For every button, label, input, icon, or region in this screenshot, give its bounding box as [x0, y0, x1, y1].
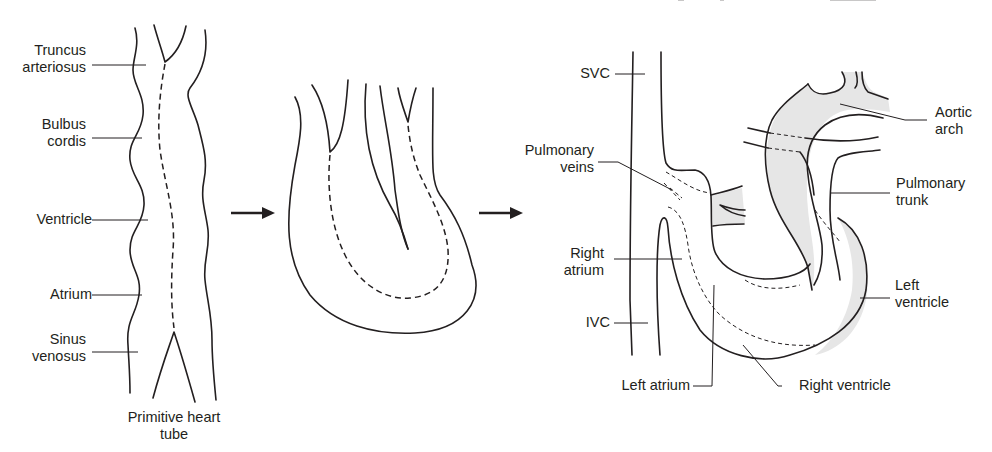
label-ventricle: Ventricle — [14, 211, 92, 228]
label-aortic-arch: Aortic arch — [935, 104, 992, 138]
label-text: ventricle — [895, 294, 975, 311]
label-text: trunk — [896, 192, 986, 209]
right-arrow-icon — [231, 207, 275, 219]
label-pulmonary-veins: Pulmonary veins — [510, 142, 594, 176]
label-ivc: IVC — [560, 314, 610, 331]
label-text: Sinus — [14, 331, 86, 348]
label-truncus-arteriosus: Truncus arteriosus — [14, 42, 86, 76]
label-right-ventricle: Right ventricle — [799, 377, 919, 394]
caption-text: Primitive heart — [118, 409, 230, 426]
label-text: Left — [895, 277, 975, 294]
label-right-atrium: Right atrium — [540, 245, 604, 279]
caption-text: tube — [118, 426, 230, 443]
label-left-atrium: Left atrium — [590, 377, 690, 394]
label-sinus-venosus: Sinus venosus — [14, 331, 86, 365]
right-arrow-icon — [479, 207, 523, 219]
label-text: Truncus — [14, 42, 86, 59]
mature-heart-drawing — [598, 52, 927, 386]
looping-heart-tube-drawing — [289, 80, 476, 333]
label-text: arch — [935, 121, 992, 138]
label-text: cordis — [14, 133, 86, 150]
label-svc: SVC — [560, 65, 610, 82]
label-text: venosus — [14, 348, 86, 365]
label-text: Pulmonary — [896, 175, 986, 192]
label-text: veins — [510, 159, 594, 176]
label-left-ventricle: Left ventricle — [895, 277, 975, 311]
label-text: Bulbus — [14, 116, 86, 133]
primitive-heart-tube-drawing — [92, 25, 216, 402]
label-atrium: Atrium — [14, 286, 92, 303]
label-text: Aortic — [935, 104, 992, 121]
label-text: atrium — [540, 262, 604, 279]
label-text: arteriosus — [14, 59, 86, 76]
label-pulmonary-trunk: Pulmonary trunk — [896, 175, 986, 209]
label-bulbus-cordis: Bulbus cordis — [14, 116, 86, 150]
label-text: Right — [540, 245, 604, 262]
caption-primitive-heart-tube: Primitive heart tube — [118, 409, 230, 443]
label-text: Pulmonary — [510, 142, 594, 159]
